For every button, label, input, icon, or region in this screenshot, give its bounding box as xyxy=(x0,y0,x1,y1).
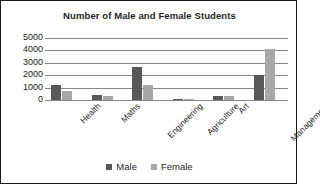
bar-male-management xyxy=(254,75,264,100)
x-tick-label-maths: Maths xyxy=(118,101,141,124)
x-tick-label-art: Art xyxy=(236,101,251,116)
bar-group xyxy=(248,38,289,100)
legend-label: Female xyxy=(161,161,193,172)
bar-female-art xyxy=(224,96,234,100)
legend-item-male[interactable]: Male xyxy=(106,161,137,172)
bar-female-engineering xyxy=(143,85,153,101)
bar-group xyxy=(167,38,208,100)
bar-group xyxy=(45,38,86,100)
x-tick-label-health: Health xyxy=(78,101,102,125)
y-tick-label: 4000 xyxy=(3,44,43,54)
plot-area xyxy=(45,38,288,100)
legend-swatch-icon xyxy=(106,164,112,170)
bar-group xyxy=(86,38,127,100)
x-tick-label-management: Management xyxy=(288,101,299,143)
y-tick-label: 0 xyxy=(3,94,43,104)
chart-legend: MaleFemale xyxy=(1,161,298,172)
bar-group xyxy=(207,38,248,100)
chart-title: Number of Male and Female Students xyxy=(1,10,298,21)
bar-male-health xyxy=(51,85,61,100)
y-tick-label: 3000 xyxy=(3,57,43,67)
bar-male-engineering xyxy=(132,67,142,100)
bar-female-management xyxy=(265,49,275,100)
chart-frame: Number of Male and Female Students 50004… xyxy=(0,0,297,184)
bar-male-maths xyxy=(92,95,102,100)
x-tick-label-agriculture: Agriculture xyxy=(204,101,240,137)
legend-item-female[interactable]: Female xyxy=(151,161,193,172)
bar-female-health xyxy=(62,91,72,100)
y-tick-label: 1000 xyxy=(3,82,43,92)
bar-female-agriculture xyxy=(184,99,194,100)
x-tick-label-engineering: Engineering xyxy=(165,101,204,140)
y-tick-label: 5000 xyxy=(3,32,43,42)
bar-female-maths xyxy=(103,96,113,100)
y-tick-label: 2000 xyxy=(3,69,43,79)
legend-label: Male xyxy=(116,161,137,172)
bar-group xyxy=(126,38,167,100)
bar-male-art xyxy=(213,96,223,100)
x-axis-category-labels: HealthMathsEngineeringAgricultureArtMana… xyxy=(45,101,288,157)
y-axis-tick-labels: 500040003000200010000 xyxy=(1,38,43,100)
legend-swatch-icon xyxy=(151,164,157,170)
bar-male-agriculture xyxy=(173,99,183,100)
